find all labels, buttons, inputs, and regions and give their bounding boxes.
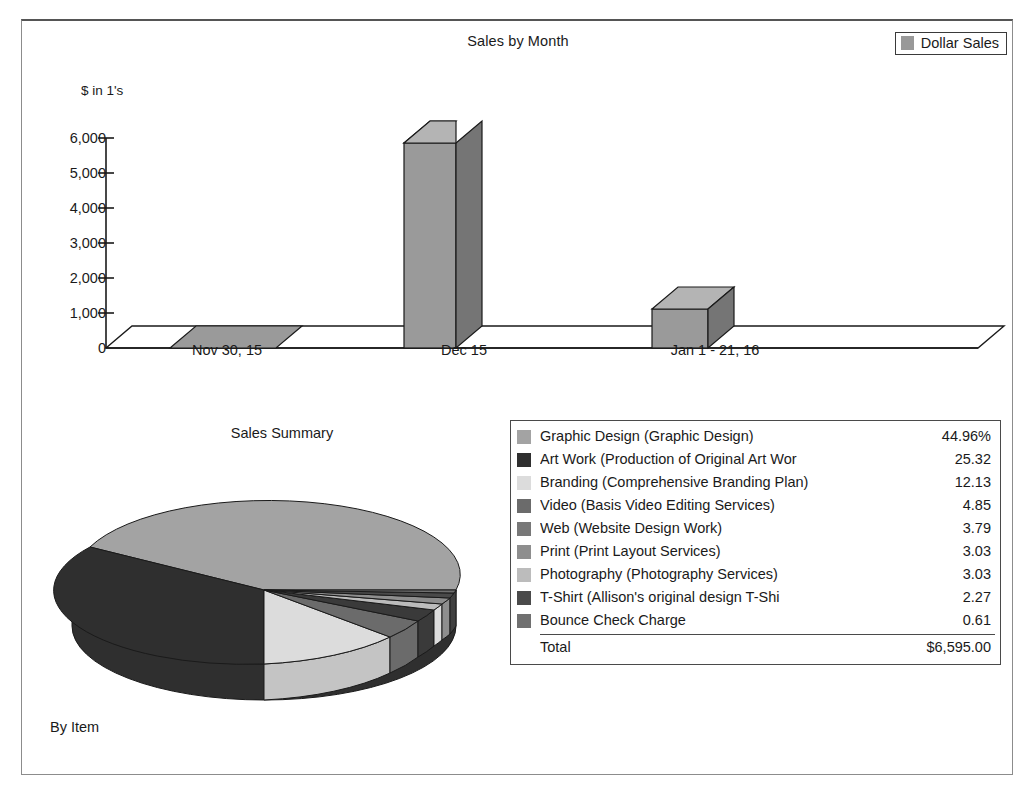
legend-value-t-shirt: 2.27 <box>963 586 995 609</box>
legend-value-branding: 12.13 <box>955 471 995 494</box>
legend-value-graphic-design: 44.96% <box>942 425 995 448</box>
legend-value-web: 3.79 <box>963 517 995 540</box>
legend-label-web: Web (Website Design Work) <box>540 517 963 540</box>
x-tick-dec-15: Dec 15 <box>441 342 487 358</box>
legend-value-print: 3.03 <box>963 540 995 563</box>
legend-row-total: Total $6,595.00 <box>540 634 995 660</box>
legend-label-art-work: Art Work (Production of Original Art Wor <box>540 448 955 471</box>
legend-label-print: Print (Print Layout Services) <box>540 540 963 563</box>
legend-row-t-shirt: T-Shirt (Allison's original design T-Shi… <box>517 586 995 609</box>
legend-swatch-photography <box>517 568 531 582</box>
legend-label-bounce-check-charge: Bounce Check Charge <box>540 609 963 632</box>
legend-label-branding: Branding (Comprehensive Branding Plan) <box>540 471 955 494</box>
x-tick-jan-1-21-16: Jan 1 - 21, 16 <box>671 342 760 358</box>
legend-swatch-branding <box>517 476 531 490</box>
pie-chart-footer-label: By Item <box>50 719 99 735</box>
legend-swatch-web <box>517 522 531 536</box>
legend-label-video: Video (Basis Video Editing Services) <box>540 494 963 517</box>
legend-row-video: Video (Basis Video Editing Services) 4.8… <box>517 494 995 517</box>
bar-chart-plot <box>22 21 1014 376</box>
legend-label-total: Total <box>540 635 926 660</box>
legend-row-bounce-check-charge: Bounce Check Charge 0.61 <box>517 609 995 632</box>
legend-swatch-t-shirt <box>517 591 531 605</box>
pie-chart-title: Sales Summary <box>117 425 447 441</box>
pie-chart-panel: Sales Summary <box>22 376 1014 777</box>
legend-label-graphic-design: Graphic Design (Graphic Design) <box>540 425 942 448</box>
legend-label-t-shirt: T-Shirt (Allison's original design T-Shi <box>540 586 963 609</box>
legend-row-art-work: Art Work (Production of Original Art Wor… <box>517 448 995 471</box>
report-frame: Sales by Month Dollar Sales $ in 1's 6,0… <box>21 19 1013 775</box>
legend-row-graphic-design: Graphic Design (Graphic Design) 44.96% <box>517 425 995 448</box>
x-tick-nov-30-15: Nov 30, 15 <box>192 342 262 358</box>
legend-swatch-video <box>517 499 531 513</box>
legend-swatch-bounce-check-charge <box>517 614 531 628</box>
legend-row-photography: Photography (Photography Services) 3.03 <box>517 563 995 586</box>
legend-value-total: $6,595.00 <box>926 635 995 660</box>
legend-row-branding: Branding (Comprehensive Branding Plan) 1… <box>517 471 995 494</box>
legend-value-photography: 3.03 <box>963 563 995 586</box>
legend-swatch-art-work <box>517 453 531 467</box>
legend-swatch-print <box>517 545 531 559</box>
legend-row-print: Print (Print Layout Services) 3.03 <box>517 540 995 563</box>
legend-value-art-work: 25.32 <box>955 448 995 471</box>
bar-chart-panel: Sales by Month Dollar Sales $ in 1's 6,0… <box>22 21 1014 376</box>
legend-value-bounce-check-charge: 0.61 <box>963 609 995 632</box>
legend-value-video: 4.85 <box>963 494 995 517</box>
y-axis <box>98 138 114 348</box>
legend-label-photography: Photography (Photography Services) <box>540 563 963 586</box>
legend-row-web: Web (Website Design Work) 3.79 <box>517 517 995 540</box>
legend-swatch-graphic-design <box>517 430 531 444</box>
pie-chart-graphic <box>50 474 520 704</box>
bar-dec-15 <box>404 121 482 348</box>
pie-chart-legend-table: Graphic Design (Graphic Design) 44.96% A… <box>510 420 1001 665</box>
